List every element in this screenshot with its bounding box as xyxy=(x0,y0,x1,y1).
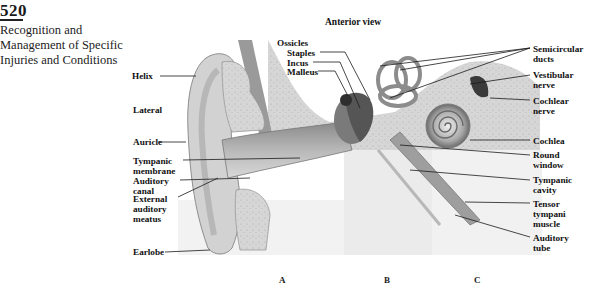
view-title: Anterior view xyxy=(325,17,381,27)
panel-label-a: A xyxy=(279,275,286,285)
label-auditory-tube: Auditory tube xyxy=(533,233,569,253)
label-lateral: Lateral xyxy=(133,105,162,115)
label-external-auditory-meatus: External auditory meatus xyxy=(133,194,167,224)
label-auricle: Auricle xyxy=(133,137,162,147)
label-staples: Staples xyxy=(287,48,315,58)
label-ossicles: Ossicles xyxy=(277,38,308,48)
cartilage-lower xyxy=(235,189,270,250)
label-malleus: Malleus xyxy=(287,67,318,77)
label-cochlear-nerve: Cochlear nerve xyxy=(533,96,569,116)
label-tensor-tympani-muscle: Tensor tympani muscle xyxy=(533,199,566,229)
label-tympanic-cavity: Tympanic cavity xyxy=(533,175,572,195)
label-helix: Helix xyxy=(132,71,153,81)
label-cochlea: Cochlea xyxy=(533,136,565,146)
label-vestibular-nerve: Vestibular nerve xyxy=(533,70,574,90)
label-semicircular-ducts: Semicircular ducts xyxy=(533,44,583,64)
panel-label-b: B xyxy=(384,275,390,285)
label-round-window: Round window xyxy=(533,150,564,170)
label-auditory-canal: Auditory canal xyxy=(133,176,169,196)
label-earlobe: Earlobe xyxy=(133,247,164,257)
malleus-head xyxy=(340,94,352,106)
panel-label-c: C xyxy=(474,275,481,285)
label-tympanic-membrane: Tympanic membrane xyxy=(133,156,175,176)
